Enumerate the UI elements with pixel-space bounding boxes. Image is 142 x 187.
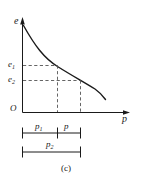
bracket-p2-subscript: 2 xyxy=(51,144,54,150)
y-axis-label: e xyxy=(14,16,18,26)
origin-label: O xyxy=(10,104,17,113)
bracket-label-p1: p1 xyxy=(35,122,43,131)
bracket-label-p2: p2 xyxy=(46,140,54,149)
x-axis xyxy=(23,110,131,114)
figure-canvas xyxy=(0,0,142,187)
bracket-p1-base: p xyxy=(35,121,40,131)
bracket-p1-subscript: 1 xyxy=(40,126,43,132)
y-tick-label-e1: e1 xyxy=(8,60,15,69)
construction-lines xyxy=(23,66,81,113)
x-axis-label: p xyxy=(122,114,127,124)
bracket-row-upper xyxy=(23,128,81,139)
y-tick-e1-subscript: 1 xyxy=(12,64,15,70)
bracket-label-p: p xyxy=(64,122,69,131)
y-tick-e2-subscript: 2 xyxy=(12,79,15,85)
bracket-p2-base: p xyxy=(46,139,51,149)
figure-caption: (c) xyxy=(61,164,71,173)
elasticity-curve xyxy=(24,26,106,100)
y-tick-label-e2: e2 xyxy=(8,75,15,84)
elasticity-figure: e p e1 e2 O p1 p p2 (c) xyxy=(0,0,142,187)
y-axis xyxy=(20,17,25,113)
